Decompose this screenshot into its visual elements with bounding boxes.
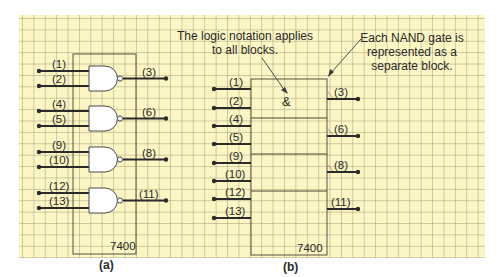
nand-gate-1: (1) (2) (3)	[37, 58, 168, 91]
pin-label: (4)	[229, 113, 243, 125]
pin-label: (3)	[334, 86, 348, 98]
pin-label: (2)	[229, 95, 243, 107]
caption-b: (b)	[283, 260, 298, 274]
and-symbol: &	[282, 94, 291, 109]
pin-label: (5)	[52, 113, 66, 125]
pin-label: (9)	[229, 150, 243, 162]
pin-label: (6)	[142, 106, 156, 118]
pin-label: (4)	[52, 98, 66, 110]
annotation-left-line1: The logic notation applies	[177, 29, 313, 43]
pin-label: (13)	[225, 205, 246, 217]
pin-label: (13)	[49, 195, 70, 207]
pin-label: (8)	[142, 147, 156, 159]
annotation-right-line3: separate block.	[371, 59, 452, 73]
pin-label: (11)	[139, 188, 159, 200]
chip-label-b: 7400	[297, 242, 323, 254]
pin-label: (1)	[52, 58, 66, 70]
pin-label: (5)	[229, 131, 243, 143]
inputs-b: (1) (2) (4) (5) (9) (10) (12) (13)	[212, 76, 251, 220]
pin-label: (11)	[331, 196, 351, 208]
chip-label-a: 7400	[110, 240, 136, 252]
annotation-left-line2: to all blocks.	[212, 43, 278, 57]
annotation-right-line2: represented as a	[367, 45, 457, 59]
pin-label: (12)	[225, 186, 246, 198]
nand-gate-2: (4) (5) (6)	[37, 98, 168, 131]
figure-a: (1) (2) (3) (4) (5) (6)	[37, 54, 168, 272]
pin-label: (10)	[49, 154, 70, 166]
figure-b: & (1) (2) (4) (5) (9) (10) (12) (13)	[177, 29, 464, 274]
annotation-right-line1: Each NAND gate is	[360, 31, 463, 45]
annotation-arrow-left	[262, 58, 285, 91]
pin-label: (10)	[225, 168, 246, 180]
pin-label: (12)	[49, 180, 70, 192]
annotation-arrow-right	[330, 39, 361, 74]
nand-gate-3: (9) (10) (8)	[37, 139, 168, 172]
pin-label: (2)	[52, 73, 66, 85]
pin-label: (9)	[52, 139, 66, 151]
nand-gate-4: (12) (13) (11)	[37, 180, 168, 213]
arrowhead-icon	[281, 87, 288, 94]
pin-label: (6)	[334, 123, 348, 135]
caption-a: (a)	[99, 258, 114, 272]
pin-label: (8)	[334, 159, 348, 171]
pin-label: (1)	[229, 76, 243, 88]
nand-diagram: (1) (2) (3) (4) (5) (6)	[0, 0, 502, 277]
outputs-b: (3) (6) (8) (11)	[327, 86, 360, 211]
pin-label: (3)	[142, 66, 156, 78]
